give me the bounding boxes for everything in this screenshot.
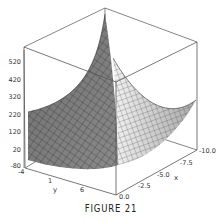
z-tick: 420: [9, 76, 21, 84]
x-axis-label: x: [174, 174, 178, 182]
y-tick: -4: [18, 168, 24, 176]
x-tick: 0.0: [119, 193, 129, 200]
z-tick: 20: [13, 146, 21, 154]
x-tick: -10.0: [199, 147, 216, 155]
y-tick: 6: [80, 186, 84, 194]
y-axis: -4 1 6 y: [18, 168, 84, 194]
z-tick: 120: [9, 128, 21, 136]
x-tick: -7.5: [180, 159, 193, 167]
z-tick: 220: [9, 111, 21, 119]
z-axis: 520 420 320 220 120 20 -80: [9, 50, 24, 170]
y-tick: 1: [48, 177, 52, 185]
surface-plot: 520 420 320 220 120 20 -80 -4 1 6 y 0.0 …: [0, 0, 222, 200]
z-tick: 320: [9, 93, 21, 101]
x-tick: -2.5: [138, 182, 151, 190]
y-axis-label: y: [53, 186, 57, 194]
z-tick: 520: [9, 58, 21, 66]
figure-caption: FIGURE 21: [17, 203, 206, 214]
x-tick: -5.0: [157, 171, 170, 179]
surface-mesh: [28, 14, 196, 169]
